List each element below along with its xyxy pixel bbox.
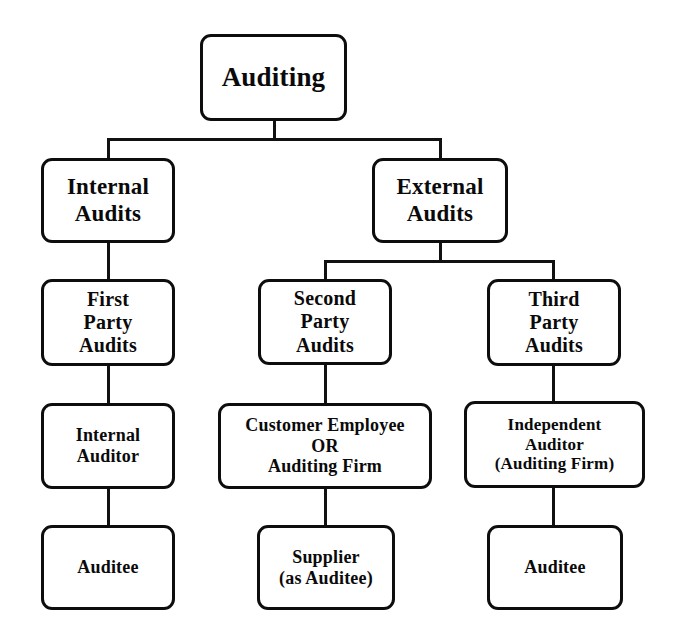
connector-bus-to-internal-audits (107, 138, 110, 160)
connector-independent-auditor-to-auditee (552, 488, 555, 526)
node-auditing[interactable]: Auditing (200, 34, 347, 121)
connector-third-party-to-independent-auditor (552, 365, 555, 402)
connector-first-party-to-internal-auditor (107, 365, 110, 404)
connector-bus-level2 (324, 260, 555, 263)
node-auditee-left[interactable]: Auditee (41, 525, 175, 610)
node-internal-audits[interactable]: Internal Audits (41, 158, 175, 243)
node-auditee-left-label: Auditee (44, 557, 172, 578)
connector-bus-level1 (107, 138, 442, 141)
connector-external-audits-stem (439, 242, 442, 262)
node-third-party-audits-label: Third Party Audits (490, 288, 618, 358)
node-second-party-audits[interactable]: Second Party Audits (258, 279, 392, 365)
node-supplier-as-auditee-label: Supplier (as Auditee) (260, 547, 392, 589)
node-second-party-audits-label: Second Party Audits (261, 287, 389, 357)
connector-bus-to-second-party (324, 260, 327, 280)
node-internal-audits-label: Internal Audits (44, 174, 172, 227)
node-internal-auditor[interactable]: Internal Auditor (41, 403, 175, 489)
node-external-audits[interactable]: External Audits (372, 158, 508, 243)
node-auditee-right-label: Auditee (490, 557, 620, 578)
node-first-party-audits-label: First Party Audits (44, 288, 172, 358)
node-external-audits-label: External Audits (375, 174, 505, 227)
node-auditing-label: Auditing (203, 62, 344, 93)
auditing-hierarchy-diagram: Auditing Internal Audits External Audits… (0, 0, 674, 644)
node-customer-employee-label: Customer Employee OR Auditing Firm (221, 415, 429, 478)
node-first-party-audits[interactable]: First Party Audits (41, 279, 175, 366)
connector-second-party-to-customer-employee (324, 364, 327, 404)
node-customer-employee-or-auditing-firm[interactable]: Customer Employee OR Auditing Firm (218, 403, 432, 489)
node-independent-auditor[interactable]: Independent Auditor (Auditing Firm) (464, 401, 645, 488)
node-independent-auditor-label: Independent Auditor (Auditing Firm) (467, 415, 642, 474)
connector-internal-auditor-to-auditee (107, 488, 110, 526)
node-auditee-right[interactable]: Auditee (487, 525, 623, 610)
connector-customer-employee-to-supplier (324, 489, 327, 526)
connector-bus-to-external-audits (439, 138, 442, 160)
node-third-party-audits[interactable]: Third Party Audits (487, 279, 621, 366)
node-supplier-as-auditee[interactable]: Supplier (as Auditee) (257, 525, 395, 610)
connector-internal-audits-to-first-party (107, 242, 110, 280)
node-internal-auditor-label: Internal Auditor (44, 425, 172, 467)
connector-bus-to-third-party (552, 260, 555, 280)
